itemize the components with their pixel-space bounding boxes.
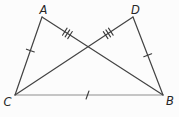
vertex-label-A: A — [39, 3, 48, 17]
segment-AC — [15, 17, 42, 95]
vertex-label-D: D — [131, 3, 140, 17]
vertex-label-C: C — [3, 95, 11, 109]
geometry-figure: A D C B — [0, 0, 179, 117]
segment-DB — [133, 17, 163, 95]
vertex-label-B: B — [166, 94, 174, 108]
segment-DC — [15, 17, 133, 95]
geometry-diagram: A D C B — [0, 0, 179, 117]
